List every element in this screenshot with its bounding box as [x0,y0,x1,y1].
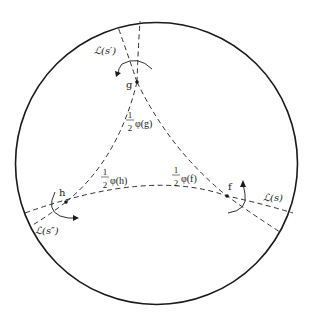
svg-text:1: 1 [174,165,179,175]
svg-text:2: 2 [128,123,133,133]
disk-boundary [16,23,298,305]
arrowhead-f-icon [240,180,246,187]
hyperbolic-disk-figure: g h f 1 2 φ(g) 1 2 φ(h) 1 2 φ(f) ℒ(s′) ℒ… [0,0,313,326]
vertex-label-g: g [126,79,133,90]
svg-text:2: 2 [103,180,108,190]
geodesic-label-L-s-double-prime: ℒ(s″) [35,225,59,236]
geodesic-g-f [137,82,280,232]
vertex-g-dot [135,80,139,84]
angle-label-f: 1 2 φ(f) [172,165,197,188]
svg-text:φ(h): φ(h) [110,175,127,187]
svg-text:φ(g): φ(g) [135,118,152,130]
angle-label-g: 1 2 φ(g) [126,110,152,133]
vertex-label-h: h [59,187,66,198]
vertex-h-dot [64,200,68,204]
geodesic-label-L-s-prime: ℒ(s′) [94,45,116,56]
svg-text:1: 1 [103,167,108,177]
angle-label-h: 1 2 φ(h) [101,167,127,190]
svg-text:2: 2 [174,178,179,188]
diagram-canvas: g h f 1 2 φ(g) 1 2 φ(h) 1 2 φ(f) ℒ(s′) ℒ… [0,0,313,326]
vertex-label-f: f [228,181,233,192]
vertex-f-dot [225,194,229,198]
geodesic-L-s-double-prime [31,202,66,226]
rotation-arrow-g-icon [118,60,152,75]
geodesic-g-top [137,21,140,82]
svg-text:1: 1 [128,110,133,120]
geodesic-L-s-prime [118,27,137,82]
svg-text:φ(f): φ(f) [181,173,197,185]
geodesic-label-L-s: ℒ(s) [263,192,283,203]
arrowhead-h-icon [73,215,79,221]
